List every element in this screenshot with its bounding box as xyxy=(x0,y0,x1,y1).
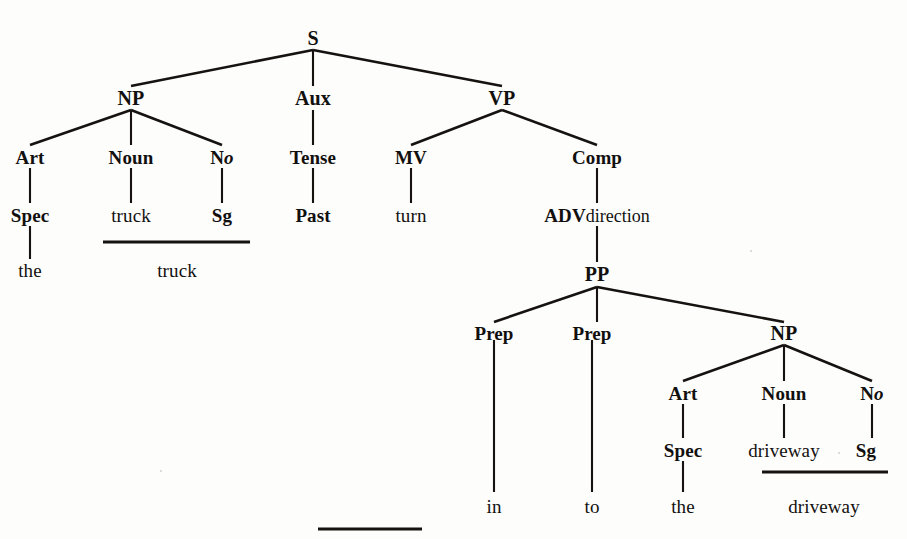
adv-subscript-direction: direction xyxy=(586,206,650,226)
tree-node-truck-lexical: truck xyxy=(111,206,151,225)
tree-node-sg-1: Sg xyxy=(212,206,232,225)
number-node-letter: N xyxy=(860,383,874,404)
tree-terminal-the-2: the xyxy=(671,497,695,516)
tree-node-np-subject: NP xyxy=(118,88,145,108)
scan-speck xyxy=(838,452,840,454)
tree-node-spec-1: Spec xyxy=(11,206,49,225)
tree-node-vp: VP xyxy=(489,88,516,108)
number-node-letter: N xyxy=(210,147,224,168)
tree-node-driveway-lexical: driveway xyxy=(748,441,820,460)
tree-node-tense: Tense xyxy=(290,148,336,167)
tree-node-noun-2: Noun xyxy=(762,384,807,403)
tree-node-pp: PP xyxy=(585,264,610,284)
scan-speck xyxy=(160,470,162,472)
tree-node-comp: Comp xyxy=(572,148,622,167)
tree-surface-truck: truck xyxy=(157,261,197,280)
tree-terminal-in: in xyxy=(487,497,502,516)
tree-node-prep-2: Prep xyxy=(572,324,611,343)
tree-node-prep-1: Prep xyxy=(474,324,513,343)
tree-node-mv: MV xyxy=(395,148,427,167)
tree-surface-driveway: driveway xyxy=(788,497,860,516)
tree-node-np-object: NP xyxy=(771,323,798,343)
tree-node-number-1: No xyxy=(210,148,233,167)
tree-node-turn: turn xyxy=(395,206,426,225)
tree-terminal-to: to xyxy=(585,497,600,516)
tree-node-adv-direction: ADVdirection xyxy=(544,206,649,225)
tree-node-noun-1: Noun xyxy=(109,148,154,167)
tree-node-sg-2: Sg xyxy=(856,441,876,460)
tree-terminal-the-1: the xyxy=(18,261,42,280)
tree-node-s: S xyxy=(307,28,318,48)
tree-node-past: Past xyxy=(295,206,330,225)
tree-node-art-1: Art xyxy=(16,148,45,167)
tree-node-art-2: Art xyxy=(669,384,698,403)
scan-speck xyxy=(750,250,752,252)
number-node-superscript: o xyxy=(874,383,884,404)
tree-node-number-2: No xyxy=(860,384,883,403)
tree-node-spec-2: Spec xyxy=(664,441,702,460)
adv-label: ADV xyxy=(544,205,585,226)
tree-node-aux: Aux xyxy=(295,88,331,108)
syntax-tree-figure: S NP Aux VP Art Noun No Tense MV Comp Sp… xyxy=(0,0,907,539)
number-node-superscript: o xyxy=(224,147,234,168)
